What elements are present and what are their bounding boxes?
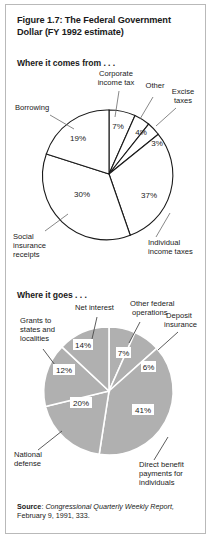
pie2-label-grants-line2: states and <box>20 325 55 334</box>
leader-line-deposit <box>158 332 178 350</box>
pie-chart-revenue <box>42 91 176 240</box>
pie-slice-borrowing[interactable] <box>46 110 109 174</box>
pie-slice-individual-income-taxes[interactable] <box>109 134 173 235</box>
leader-line-other <box>140 97 153 119</box>
pie2-label-grants-line3: localities <box>20 334 49 343</box>
section-heading-revenue: Where it comes from . . . <box>17 58 115 68</box>
pie2-label-national-line1: National <box>14 450 42 459</box>
pie1-label-excise-line1: Excise <box>172 87 194 96</box>
charts-container: 7% 4% 3% 37% 30% 19% Corporate income ta… <box>6 5 207 535</box>
pie2-value-national-defense: 20% <box>73 399 89 408</box>
source-label: Source <box>17 502 41 511</box>
pie2-label-deposit-line1: Deposit <box>166 311 193 320</box>
pie-slice-excise-taxes[interactable] <box>109 124 158 174</box>
pie2-value-box-other-federal <box>116 347 131 358</box>
pie1-value-other: 4% <box>135 128 147 137</box>
pie2-value-box-deposit <box>141 361 156 372</box>
pie-slice-net-interest[interactable] <box>62 327 109 391</box>
pie1-value-corporate: 7% <box>112 122 124 131</box>
pie-chart-outlays <box>38 317 178 460</box>
pie2-label-direct-line2: payments for <box>139 469 183 478</box>
pie2-label-grants-line1: Grants to <box>20 316 51 325</box>
pie2-value-net-interest: 14% <box>75 341 91 350</box>
pie-slice-other-federal-operations[interactable] <box>109 327 135 391</box>
pie-slice-grants-to-states[interactable] <box>44 347 109 407</box>
leader-line-net-interest <box>92 317 97 339</box>
pie1-label-social-line2: insurance <box>13 241 46 250</box>
pie1-value-excise: 3% <box>151 139 163 148</box>
pie2-label-other-federal-line1: Other federal <box>130 299 175 308</box>
leader-line-social <box>45 214 68 231</box>
pie2-value-box-grants <box>53 364 75 375</box>
pie2-value-box-net-interest <box>73 339 93 350</box>
pie-slice-deposit-insurance[interactable] <box>109 333 157 391</box>
pie2-label-direct-line3: individuals <box>139 478 175 487</box>
pie2-value-box-direct-benefit <box>132 404 154 415</box>
pie1-value-social: 30% <box>74 190 90 199</box>
pie1-label-excise-line2: taxes <box>174 96 192 105</box>
pie2-label-net-interest: Net interest <box>75 303 115 312</box>
pie1-label-individual-line1: Individual <box>148 238 180 247</box>
pie-slice-corporate-income-tax[interactable] <box>109 110 135 174</box>
pie2-label-deposit-line2: insurance <box>164 320 197 329</box>
pie2-value-other-federal: 7% <box>118 349 130 358</box>
source-citation: February 9, 1991, 333. <box>17 511 90 520</box>
source-note: Source: Congressional Quarterly Weekly R… <box>17 502 197 521</box>
leader-line-individual <box>156 213 170 237</box>
leader-line-corporate <box>115 91 119 117</box>
pie1-label-other: Other <box>146 81 165 90</box>
leader-line-excise <box>156 108 176 126</box>
pie2-value-grants: 12% <box>56 366 72 375</box>
pie1-label-corporate-line2: income tax <box>98 78 135 87</box>
pie2-label-national-line2: defense <box>14 459 41 468</box>
pie2-value-direct-benefit: 41% <box>135 406 151 415</box>
pie1-label-social-line1: Social <box>13 232 34 241</box>
pie1-label-corporate-line1: Corporate <box>99 69 133 78</box>
pie2-label-other-federal-line2: operations <box>132 308 168 317</box>
pie1-label-individual-line2: income taxes <box>148 247 193 256</box>
leader-line-national-defense <box>38 431 62 450</box>
pie-slice-direct-benefit-payments[interactable] <box>99 348 173 455</box>
pie1-value-individual: 37% <box>141 191 157 200</box>
figure-card: Figure 1.7: The Federal Government Dolla… <box>5 4 206 534</box>
pie1-value-borrowing: 19% <box>70 134 86 143</box>
pie2-value-deposit: 6% <box>143 363 155 372</box>
pie1-label-social-line3: receipts <box>13 250 40 259</box>
leader-line-other-federal <box>129 322 140 343</box>
pie-slice-other[interactable] <box>109 116 149 174</box>
leader-line-borrowing <box>50 115 74 129</box>
leader-line-direct-benefit <box>154 437 168 460</box>
leader-line-grants <box>43 349 58 369</box>
pie2-label-direct-line1: Direct benefit <box>139 460 185 469</box>
pie-slice-national-defense[interactable] <box>45 391 109 454</box>
section-heading-outlays: Where it goes . . . <box>17 290 87 300</box>
source-publication: Congressional Quarterly Weekly Report, <box>45 502 174 511</box>
pie-slice-social-insurance-receipts[interactable] <box>42 154 130 240</box>
pie2-value-box-national-defense <box>70 397 92 408</box>
figure-title: Figure 1.7: The Federal Government Dolla… <box>17 15 195 38</box>
pie1-label-borrowing: Borrowing <box>15 103 49 112</box>
